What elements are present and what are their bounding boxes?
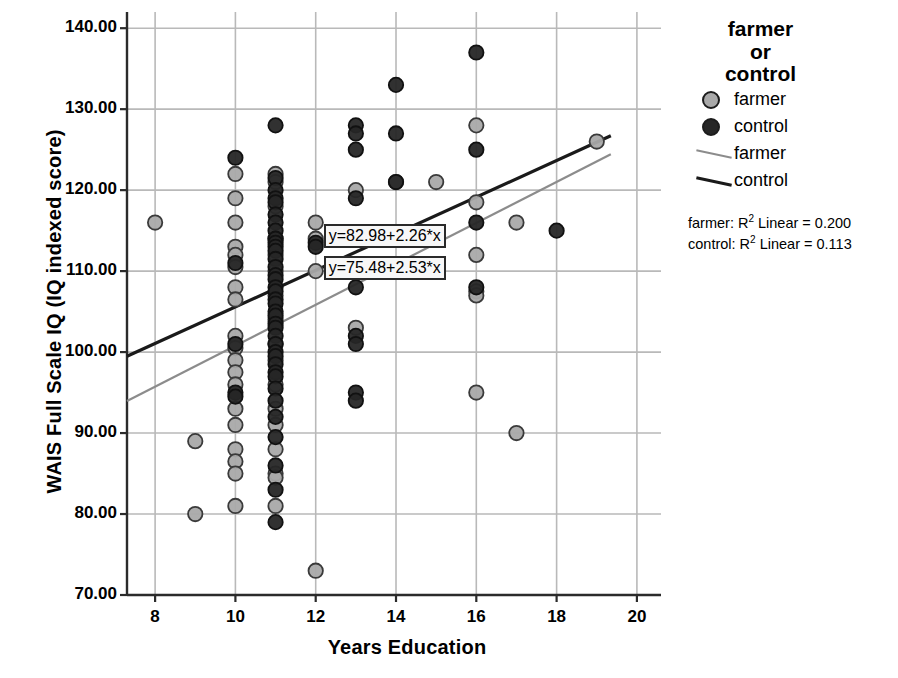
legend-item-control-line: control [696, 167, 896, 194]
regression-equation-label: y=82.98+2.26*x [324, 224, 446, 248]
y-tick-label: 100.00 [31, 341, 117, 361]
r2-control-suffix: Linear = 0.113 [756, 236, 852, 252]
x-tick-label: 20 [612, 607, 662, 627]
legend-item-control-marker: control [696, 113, 896, 140]
legend-label-farmer-line: farmer [734, 143, 786, 164]
x-tick-label: 18 [532, 607, 582, 627]
y-axis-title: WAIS Full Scale IQ (IQ indexed score) [43, 62, 66, 562]
x-tick-label: 8 [130, 607, 180, 627]
r2-farmer-prefix: farmer: R [688, 215, 748, 231]
y-tick-label: 140.00 [31, 17, 117, 37]
r-squared-block: farmer: R2 Linear = 0.200 control: R2 Li… [688, 212, 896, 255]
x-tick-label: 10 [210, 607, 260, 627]
x-tick-label: 14 [371, 607, 421, 627]
legend-item-farmer-marker: farmer [696, 86, 896, 113]
legend-title-line-3: control [688, 63, 833, 86]
y-tick-label: 130.00 [31, 98, 117, 118]
x-tick-label: 12 [291, 607, 341, 627]
y-tick-label: 90.00 [31, 422, 117, 442]
r2-farmer-suffix: Linear = 0.200 [754, 215, 851, 231]
y-tick-label: 120.00 [31, 179, 117, 199]
scatter-chart: WAIS Full Scale IQ (IQ indexed score) Ye… [0, 0, 898, 678]
y-tick-label: 80.00 [31, 503, 117, 523]
y-tick-label: 70.00 [31, 584, 117, 604]
y-tick-label: 110.00 [31, 260, 117, 280]
legend-title-line-1: farmer [688, 18, 833, 41]
regression-equation-label: y=75.48+2.53*x [324, 256, 446, 280]
r-squared-farmer: farmer: R2 Linear = 0.200 [688, 212, 896, 233]
r2-control-prefix: control: R [688, 236, 750, 252]
x-tick-label: 16 [451, 607, 501, 627]
legend-title: farmer or control [688, 18, 833, 86]
x-axis-title: Years Education [127, 636, 687, 659]
control-line-icon [696, 169, 734, 193]
r-squared-control: control: R2 Linear = 0.113 [688, 233, 896, 254]
legend-label-control-line: control [734, 170, 788, 191]
legend-item-farmer-line: farmer [696, 140, 896, 167]
farmer-marker-icon [696, 88, 734, 112]
legend: farmer or control farmer control farmer [686, 18, 896, 255]
legend-title-line-2: or [688, 41, 833, 64]
legend-label-control-marker: control [734, 116, 788, 137]
farmer-line-icon [696, 142, 734, 166]
legend-label-farmer-marker: farmer [734, 89, 786, 110]
control-marker-icon [696, 115, 734, 139]
